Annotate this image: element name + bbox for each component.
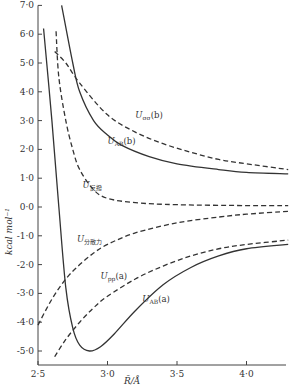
tick-labels: 7·06·05·04·03·02·01·00·0-1·0-2·0-3·0-4·0… bbox=[17, 0, 254, 379]
y-tick-label: 0·0 bbox=[20, 202, 35, 212]
y-tick-label: -1·0 bbox=[17, 231, 35, 241]
x-tick-label: 3·5 bbox=[170, 369, 185, 379]
y-axis-label: kcal mol⁻¹ bbox=[4, 208, 14, 255]
y-tick-label: 4·0 bbox=[20, 87, 35, 97]
curve-label: Uσσ(b) bbox=[135, 110, 162, 121]
y-tick-label: -3·0 bbox=[17, 288, 35, 298]
y-tick-label: 2·0 bbox=[20, 144, 35, 154]
curve-label: U反撥 bbox=[82, 180, 101, 192]
curve-label: UAB(b) bbox=[108, 136, 136, 147]
y-tick-label: -4·0 bbox=[17, 317, 35, 327]
x-tick-label: 4·0 bbox=[239, 369, 254, 379]
curve-label: Upp(a) bbox=[101, 271, 128, 283]
series-line bbox=[62, 5, 289, 173]
y-tick-label: 3·0 bbox=[20, 116, 35, 126]
curve-label: UAB(a) bbox=[142, 294, 170, 305]
x-axis-label: R̄/Å bbox=[123, 375, 140, 386]
y-tick-label: 6·0 bbox=[20, 29, 35, 39]
series-line bbox=[56, 31, 288, 205]
x-tick-label: 2·5 bbox=[31, 369, 46, 379]
series-line bbox=[55, 51, 289, 169]
curve-label: U分散力 bbox=[77, 234, 102, 246]
series-lines bbox=[38, 5, 288, 356]
series-line bbox=[38, 211, 288, 325]
y-tick-label: 5·0 bbox=[20, 58, 35, 68]
axes bbox=[38, 5, 286, 365]
y-tick-label: -2·0 bbox=[17, 260, 35, 270]
y-tick-label: 7·0 bbox=[20, 0, 35, 10]
y-tick-label: -5·0 bbox=[17, 346, 35, 356]
potential-energy-chart: 7·06·05·04·03·02·01·00·0-1·0-2·0-3·0-4·0… bbox=[0, 0, 291, 391]
y-tick-label: 1·0 bbox=[20, 173, 35, 183]
x-tick-label: 3·0 bbox=[100, 369, 115, 379]
series-line bbox=[55, 240, 289, 357]
curve-labels: Uσσ(b)UAB(b)U反撥U分散力Upp(a)UAB(a) bbox=[77, 110, 170, 305]
